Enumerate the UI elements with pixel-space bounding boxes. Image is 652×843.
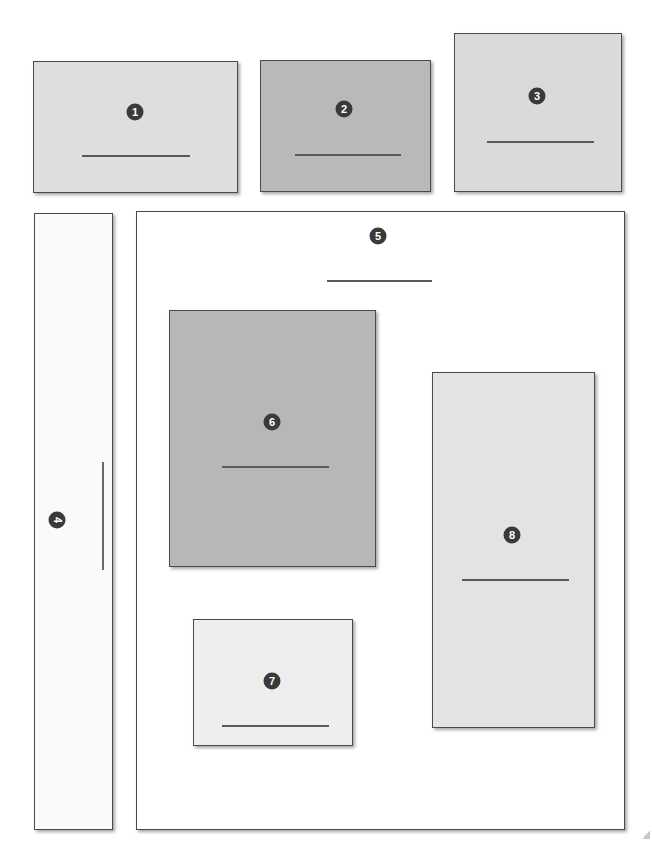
region-5-number-badge: 5 [370, 228, 387, 245]
region-3-caption-line [487, 141, 594, 143]
region-1-caption-line [82, 155, 190, 157]
region-1 [33, 61, 238, 193]
region-8-number-badge: 8 [504, 527, 521, 544]
region-2-caption-line [295, 154, 401, 156]
page-curl-icon [642, 831, 650, 839]
region-2 [260, 60, 431, 192]
region-1-number-badge: 1 [127, 104, 144, 121]
region-3-number-badge: 3 [529, 88, 546, 105]
region-7-caption-line [222, 725, 329, 727]
region-5-caption-line [327, 280, 432, 282]
region-6 [169, 310, 376, 567]
region-2-number-badge: 2 [336, 101, 353, 118]
region-6-caption-line [222, 466, 329, 468]
region-4-number-badge: 4 [49, 512, 66, 529]
region-6-number-badge: 6 [264, 414, 281, 431]
region-8 [432, 372, 595, 728]
region-3 [454, 33, 622, 192]
region-4-caption-line [102, 462, 104, 570]
region-7-number-badge: 7 [264, 673, 281, 690]
region-8-caption-line [462, 579, 569, 581]
